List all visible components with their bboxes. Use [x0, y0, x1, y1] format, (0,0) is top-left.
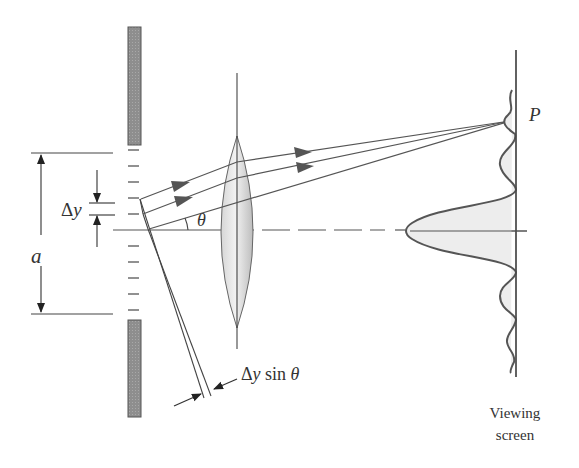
viewing-screen-label: Viewingscreen — [484, 402, 546, 446]
theta-symbol: θ — [291, 364, 300, 384]
converging-lens — [221, 73, 253, 349]
angle-label: θ — [197, 210, 206, 231]
barrier-top — [128, 27, 141, 145]
sin-text: sin — [261, 364, 291, 384]
path-difference-label: Δy sin θ — [241, 364, 299, 385]
slit-width-dimension — [31, 153, 113, 314]
y-variable: y — [73, 199, 81, 220]
screen-label-line2: screen — [484, 424, 546, 446]
diffraction-diagram — [0, 0, 579, 468]
delta-y-label: Δy — [61, 199, 82, 221]
delta-symbol: Δ — [241, 364, 253, 384]
delta-symbol: Δ — [61, 199, 73, 220]
screen-label-line1: Viewing — [484, 402, 546, 424]
y-variable: y — [253, 364, 261, 384]
path-difference-arrows — [174, 379, 237, 406]
angle-arc — [185, 218, 188, 230]
barrier-bottom — [128, 320, 141, 417]
delta-y-dimension — [89, 170, 115, 247]
slit-width-label: a — [31, 244, 42, 269]
point-p-label: P — [529, 104, 541, 126]
